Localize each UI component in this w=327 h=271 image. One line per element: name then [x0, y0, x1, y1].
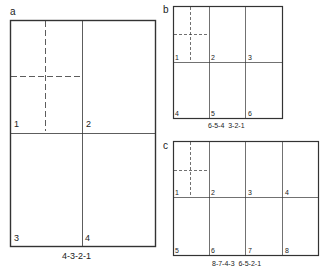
- figure-c-panel-1-label: 1: [175, 189, 179, 196]
- fold-diagram-canvas: [0, 0, 327, 271]
- figure-c-panel-6-label: 6: [211, 247, 215, 254]
- figure-b-letter: b: [163, 5, 169, 15]
- figure-a-panel-3-label: 3: [14, 234, 19, 243]
- figure-b-panel-2-label: 2: [211, 54, 215, 61]
- figure-c-panel-4-label: 4: [285, 189, 289, 196]
- figure-b-caption: 6-5-4 3-2-1: [208, 122, 245, 129]
- figure-b-panel-1-label: 1: [175, 54, 179, 61]
- figure-b-panel-5-label: 5: [211, 110, 215, 117]
- figure-b-panel-3-label: 3: [248, 54, 252, 61]
- figure-b-panel-6-label: 6: [248, 110, 252, 117]
- figure-b-sheet: [174, 7, 283, 119]
- figure-c-letter: c: [163, 141, 168, 151]
- figure-c-sheet: [174, 142, 319, 256]
- figure-c-panel-8-label: 8: [285, 247, 289, 254]
- figure-c-caption: 8-7-4-3 6-5-2-1: [212, 260, 261, 267]
- figure-c-panel-3-label: 3: [248, 189, 252, 196]
- figure-b-panel-4-label: 4: [175, 110, 179, 117]
- figure-c-panel-2-label: 2: [211, 189, 215, 196]
- figure-a-letter: a: [10, 7, 16, 17]
- figure-a-sheet: [11, 21, 156, 247]
- figure-a-panel-2-label: 2: [86, 120, 91, 129]
- figure-a-caption: 4-3-2-1: [62, 252, 91, 261]
- figure-c-panel-7-label: 7: [248, 247, 252, 254]
- figure-a-panel-4-label: 4: [85, 234, 90, 243]
- figure-c-panel-5-label: 5: [175, 247, 179, 254]
- figure-a-panel-1-label: 1: [14, 120, 19, 129]
